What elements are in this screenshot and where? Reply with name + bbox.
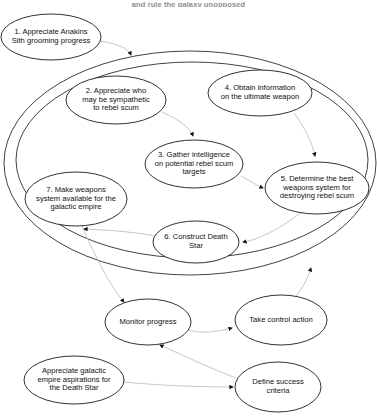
diagram-canvas: and rule the galaxy unopposed	[0, 0, 377, 417]
edge-node7-to-monitor	[82, 226, 124, 302]
node-shape-appreciate-anakins-sith-grooming-progress[interactable]	[1, 14, 101, 60]
node-shapes	[1, 14, 369, 412]
node-shape-appreciate-galactic-empire-aspirations-for-the-death-star[interactable]	[24, 356, 124, 404]
node-shape-gather-intelligence-on-potential-rebel-scum-targets[interactable]	[145, 140, 243, 188]
edge-node2-to-node3	[162, 112, 193, 136]
diagram-svg	[0, 0, 377, 417]
node-shape-take-control-action[interactable]	[235, 295, 327, 345]
node-shape-make-weapons-system-available-for-the-galactic-empire[interactable]	[25, 172, 127, 226]
node-shape-monitor-progress[interactable]	[105, 299, 191, 345]
node-shape-obtain-information-on-the-ultimate-weapon[interactable]	[208, 70, 312, 116]
edge-control-to-boundary	[296, 268, 311, 296]
node-shape-appreciate-who-may-be-sympathetic-to-rebel-scum[interactable]	[66, 76, 166, 124]
edge-node1-to-boundary	[100, 41, 131, 55]
edge-node4-to-node5	[294, 113, 315, 156]
edge-node3-to-node5	[241, 176, 263, 188]
edge-node5-to-node6	[243, 212, 302, 242]
edge-aspirations-to-success	[124, 382, 233, 387]
edge-monitor-to-control	[188, 328, 232, 332]
node-shape-define-success-criteria[interactable]	[235, 362, 321, 412]
node-shape-construct-death-star[interactable]	[153, 221, 239, 263]
edge-success-to-monitor	[160, 345, 236, 378]
node-shape-determine-the-best-weapons-system-for-destroying-rebel-scum[interactable]	[265, 162, 369, 214]
edge-node6-to-node7	[84, 229, 155, 236]
